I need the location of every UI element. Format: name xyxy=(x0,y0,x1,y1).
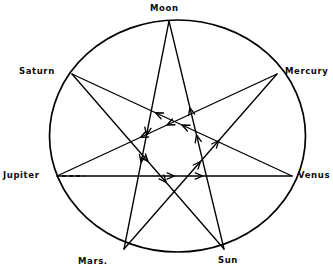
heptagram-figure xyxy=(0,0,333,273)
node-label-moon: Moon xyxy=(150,4,179,13)
star-edges xyxy=(57,21,292,249)
node-label-jupiter: Jupiter xyxy=(3,171,39,180)
node-label-mars: Mars. xyxy=(78,257,108,266)
node-label-venus: Venus xyxy=(298,171,330,180)
node-label-saturn: Saturn xyxy=(19,67,55,76)
diagram-canvas: Moon Mercury Venus Sun Mars. Jupiter Sat… xyxy=(0,0,333,273)
node-label-sun: Sun xyxy=(218,256,238,265)
node-label-mercury: Mercury xyxy=(285,67,328,76)
